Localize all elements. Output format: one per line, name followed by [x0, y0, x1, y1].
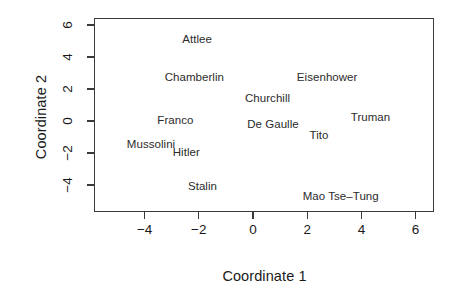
y-tick-label: 0 [58, 106, 76, 136]
y-tick-mark [87, 56, 94, 57]
y-tick-label: −2 [58, 138, 76, 168]
y-axis-title: Coordinate 2 [28, 0, 54, 237]
x-tick-mark [198, 212, 199, 219]
data-point-label: Chamberlin [165, 71, 224, 83]
x-tick-mark [307, 212, 308, 219]
y-tick-mark [87, 152, 94, 153]
data-point-label: Mussolini [127, 138, 175, 150]
x-tick-label: 4 [341, 222, 381, 237]
y-axis-title-wrapper: Coordinate 2 [2, 0, 28, 240]
x-axis-title: Coordinate 1 [94, 268, 435, 284]
data-point-label: Attlee [182, 33, 212, 45]
data-point-label: De Gaulle [247, 118, 299, 130]
y-tick-mark [87, 184, 94, 185]
y-tick-mark [87, 24, 94, 25]
y-tick-mark [87, 88, 94, 89]
y-tick-mark [87, 120, 94, 121]
x-tick-mark [415, 212, 416, 219]
x-tick-label: 6 [396, 222, 436, 237]
y-tick-label: −4 [58, 170, 76, 200]
data-point-label: Eisenhower [297, 71, 358, 83]
data-point-label: Truman [351, 111, 391, 123]
x-tick-label: −4 [125, 222, 165, 237]
data-point-label: Hitler [173, 146, 200, 158]
x-tick-mark [144, 212, 145, 219]
plot-area: AttleeChamberlinEisenhowerChurchillTruma… [94, 18, 434, 212]
scatter-plot: Coordinate 2 −4−20246 AttleeChamberlinEi… [0, 0, 449, 298]
data-point-label: Tito [310, 129, 329, 141]
x-tick-mark [361, 212, 362, 219]
y-tick-label: 2 [58, 74, 76, 104]
y-tick-label: 4 [58, 42, 76, 72]
x-tick-label: 0 [233, 222, 273, 237]
data-point-label: Stalin [188, 180, 217, 192]
data-point-label: Churchill [245, 92, 290, 104]
data-point-label: Mao Tse–Tung [303, 190, 379, 202]
x-tick-label: −2 [179, 222, 219, 237]
x-tick-label: 2 [287, 222, 327, 237]
data-point-label: Franco [157, 114, 193, 126]
x-tick-mark [252, 212, 253, 219]
y-tick-label: 6 [58, 10, 76, 40]
